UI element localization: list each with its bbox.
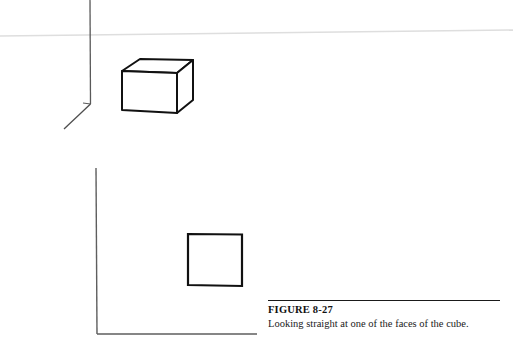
vertical-axis-line (90, 0, 91, 104)
perspective-view-figure (64, 0, 193, 129)
figure-number-label: FIGURE 8-27 (268, 303, 506, 316)
figure-caption-text: Looking straight at one of the faces of … (268, 317, 506, 331)
horizontal-axis-line (83, 103, 91, 104)
depth-axis-line (64, 104, 91, 129)
front-vertical-axis-line (96, 168, 97, 334)
front-view-figure (96, 168, 257, 334)
perspective-axes (64, 0, 91, 129)
cube-face-square (188, 234, 242, 286)
figure-page: FIGURE 8-27 Looking straight at one of t… (0, 0, 513, 352)
scan-artifact-line (0, 30, 513, 36)
figure-caption: FIGURE 8-27 Looking straight at one of t… (268, 300, 506, 331)
cube-front-face (122, 71, 177, 113)
cube-perspective (122, 59, 193, 113)
caption-rule (268, 300, 500, 301)
